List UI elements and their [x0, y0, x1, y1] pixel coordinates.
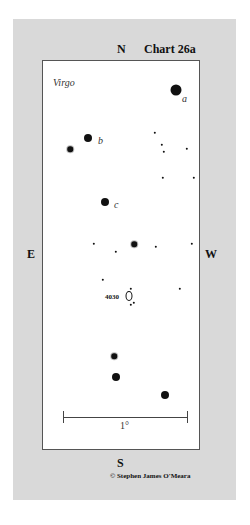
star-c — [101, 198, 109, 206]
star-c-label: c — [114, 199, 118, 210]
star-a — [171, 85, 182, 96]
west-label: W — [205, 247, 217, 262]
star-chart-frame — [42, 60, 200, 450]
east-label: E — [27, 247, 35, 262]
scale-bar — [63, 417, 187, 418]
star-b-label: b — [98, 135, 103, 146]
south-label: S — [117, 456, 124, 471]
galaxy-ngc4030 — [126, 291, 133, 301]
chart-title: Chart 26a — [144, 42, 196, 57]
galaxy-label: 4030 — [105, 293, 119, 301]
star-a-label: a — [182, 93, 187, 104]
north-label: N — [117, 42, 126, 57]
scale-tick-left — [63, 411, 64, 423]
star-b — [84, 134, 92, 142]
copyright: © Stephen James O'Meara — [110, 472, 190, 480]
star — [131, 241, 137, 247]
scale-label: 1° — [120, 420, 129, 431]
star — [111, 353, 117, 359]
constellation-label: Virgo — [53, 77, 75, 88]
scale-tick-right — [187, 411, 188, 423]
star — [161, 391, 169, 399]
star — [67, 146, 73, 152]
star — [112, 373, 120, 381]
